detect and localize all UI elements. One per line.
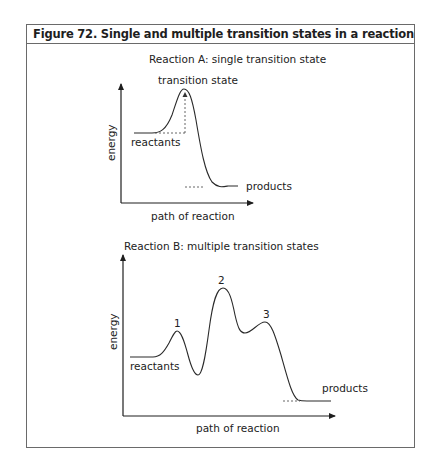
reaction-b-x-label: path of reaction (196, 422, 280, 434)
reaction-b-energy-curve (130, 288, 331, 401)
reaction-a-x-label: path of reaction (151, 210, 235, 222)
energy-diagrams: Reaction A: single transition state ener… (0, 0, 437, 471)
reaction-b-y-label: energy (107, 313, 119, 350)
reaction-b-products-label: products (322, 382, 368, 394)
reaction-a-reactants-label: reactants (131, 136, 181, 148)
reaction-b-diagram: Reaction B: multiple transition states e… (107, 240, 368, 434)
reaction-b-reactants-label: reactants (130, 360, 180, 372)
reaction-b-peak-1-label: 1 (174, 317, 181, 329)
reaction-b-title: Reaction B: multiple transition states (124, 240, 319, 252)
reaction-b-peak-2-label: 2 (218, 274, 225, 286)
reaction-b-peak-3-label: 3 (263, 308, 270, 320)
reaction-a-y-label: energy (105, 124, 117, 161)
reaction-a-products-label: products (246, 180, 292, 192)
reaction-a-diagram: Reaction A: single transition state ener… (105, 53, 326, 222)
reaction-a-transition-state-label: transition state (158, 74, 238, 86)
reaction-a-title: Reaction A: single transition state (149, 53, 326, 65)
